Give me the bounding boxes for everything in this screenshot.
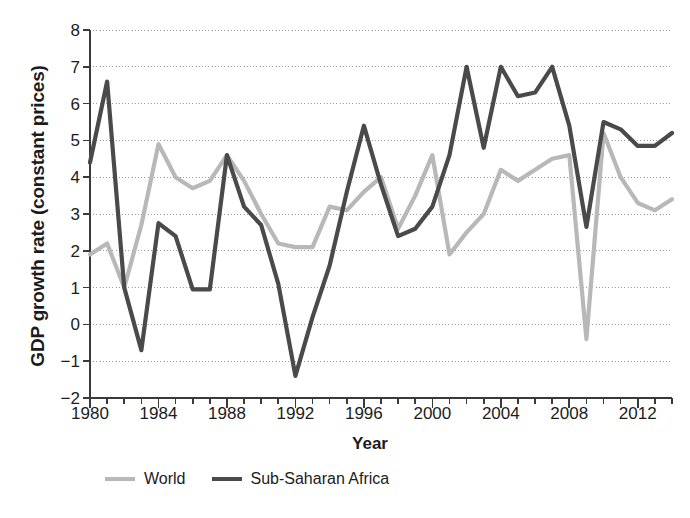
legend-swatch-icon — [105, 477, 135, 481]
gdp-growth-line-chart: GDP growth rate (constant prices) −2−101… — [0, 0, 690, 518]
legend-item-world: World — [105, 470, 186, 488]
legend-swatch-icon — [212, 477, 242, 481]
x-axis-title: Year — [0, 434, 690, 454]
legend-label: World — [144, 470, 186, 488]
legend-label: Sub-Saharan Africa — [251, 470, 390, 488]
legend-item-sub-saharan-africa: Sub-Saharan Africa — [212, 470, 390, 488]
chart-legend: WorldSub-Saharan Africa — [105, 470, 389, 488]
